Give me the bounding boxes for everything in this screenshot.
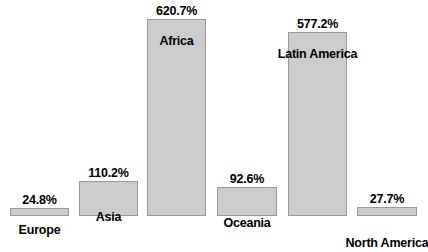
bar-group-africa: 620.7% Africa bbox=[147, 19, 206, 216]
bar-group-latin-america: 577.2% Latin America bbox=[288, 32, 347, 216]
bar-group-north-america: 27.7% North America bbox=[357, 207, 417, 216]
plot-area: 24.8% Europe 110.2% Asia 620.7% Africa 9… bbox=[0, 0, 428, 252]
value-label-latin-america: 577.2% bbox=[297, 18, 338, 31]
bar-north-america[interactable] bbox=[357, 207, 417, 216]
category-label-oceania: Oceania bbox=[223, 217, 270, 230]
bar-africa[interactable] bbox=[147, 19, 206, 216]
bar-group-asia: 110.2% Asia bbox=[79, 181, 138, 216]
category-label-asia: Asia bbox=[96, 211, 122, 224]
value-label-asia: 110.2% bbox=[88, 167, 129, 180]
value-label-north-america: 27.7% bbox=[370, 193, 404, 206]
bar-oceania[interactable] bbox=[217, 187, 277, 216]
bar-group-europe: 24.8% Europe bbox=[10, 208, 69, 216]
category-label-north-america: North America bbox=[345, 237, 428, 250]
bar-group-oceania: 92.6% Oceania bbox=[217, 187, 277, 216]
category-label-europe: Europe bbox=[19, 224, 61, 237]
category-label-africa: Africa bbox=[159, 35, 193, 48]
value-label-europe: 24.8% bbox=[22, 194, 56, 207]
category-label-latin-america: Latin America bbox=[278, 48, 358, 61]
bar-europe[interactable] bbox=[10, 208, 69, 216]
value-label-africa: 620.7% bbox=[156, 5, 197, 18]
bar-chart: 24.8% Europe 110.2% Asia 620.7% Africa 9… bbox=[0, 0, 428, 252]
value-label-oceania: 92.6% bbox=[230, 173, 264, 186]
